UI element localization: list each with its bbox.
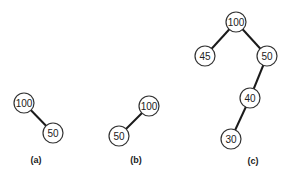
tree-diagram-canvas: 100501005010045504030 (a)(b)(c) <box>0 0 292 177</box>
tree-node: 100 <box>226 12 246 32</box>
tree-node: 50 <box>257 46 277 66</box>
tree-node: 45 <box>195 46 215 66</box>
node-label: 100 <box>228 17 245 28</box>
node-label: 45 <box>199 51 211 62</box>
node-label: 50 <box>113 131 125 142</box>
edges-layer <box>24 22 267 139</box>
tree-node: 30 <box>221 129 241 149</box>
node-label: 50 <box>47 128 59 139</box>
tree-caption: (b) <box>130 155 142 165</box>
node-label: 30 <box>225 134 237 145</box>
nodes-layer: 100501005010045504030 <box>14 12 277 149</box>
tree-node: 40 <box>240 88 260 108</box>
node-label: 100 <box>141 101 158 112</box>
tree-caption: (a) <box>31 155 42 165</box>
captions-layer: (a)(b)(c) <box>31 155 259 166</box>
tree-node: 50 <box>43 123 63 143</box>
tree-node: 100 <box>139 96 159 116</box>
tree-node: 50 <box>109 126 129 146</box>
node-label: 100 <box>16 98 33 109</box>
tree-node: 100 <box>14 93 34 113</box>
node-label: 40 <box>244 93 256 104</box>
tree-caption: (c) <box>248 156 259 166</box>
node-label: 50 <box>261 51 273 62</box>
